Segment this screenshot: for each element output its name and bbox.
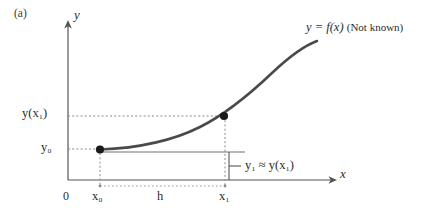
y-axis [64,20,72,180]
panel-tag: (a) [14,8,27,20]
x-step-label: h [157,190,163,203]
point-x0-y0 [96,145,104,153]
y-tick-label-lower: y₀ [41,141,52,154]
error-bracket [229,152,241,180]
curve-note-text: (Not known) [347,21,404,33]
h-dimension-line [99,185,227,188]
approximation-annotation: y₁ ≈ y(x₁) [245,159,294,172]
x-axis [68,176,337,184]
x-tick-label-start: x₀ [92,190,103,203]
x-tick-label-end: x₁ [219,190,230,203]
curve-equation-text: y = f(x) [306,20,344,34]
origin-label: 0 [63,190,69,202]
curve-equation-label: y = f(x) (Not known) [306,21,403,34]
y-axis-label: y [74,8,80,21]
point-x1-yx1 [220,112,228,120]
solution-curve [100,41,317,150]
x-axis-label: x [340,167,346,180]
y-tick-label-upper: y(x₁) [22,107,47,120]
